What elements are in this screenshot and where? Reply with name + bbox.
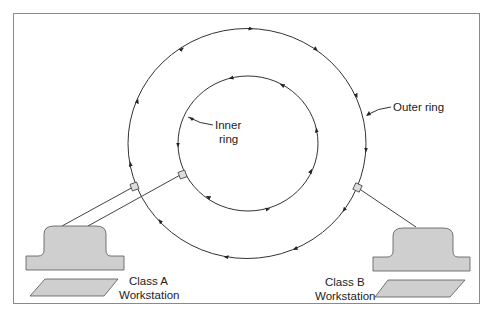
class-b-label-line2: Workstation [315,290,376,303]
ring-diagram [0,0,491,318]
class-a-connections [62,170,187,226]
class-b-label-line1: Class B [325,276,365,289]
class-a-workstation [26,226,124,296]
class-a-keyboard [30,279,118,296]
outer-ring-leader [367,107,391,115]
class-b-outer-connector [353,183,362,192]
inner-ring-label-line2: ring [219,133,238,146]
inner-ring [178,76,318,211]
class-a-inner-connector [178,170,187,179]
outer-ring [128,29,366,259]
outer-ring-label: Outer ring [393,101,444,114]
class-b-keyboard [375,280,465,297]
class-b-connections [353,183,416,227]
inner-ring-label-line1: Inner [215,119,241,132]
class-a-label-line1: Class A [129,275,168,288]
class-a-label-line2: Workstation [119,289,180,302]
class-b-workstation [373,228,470,297]
